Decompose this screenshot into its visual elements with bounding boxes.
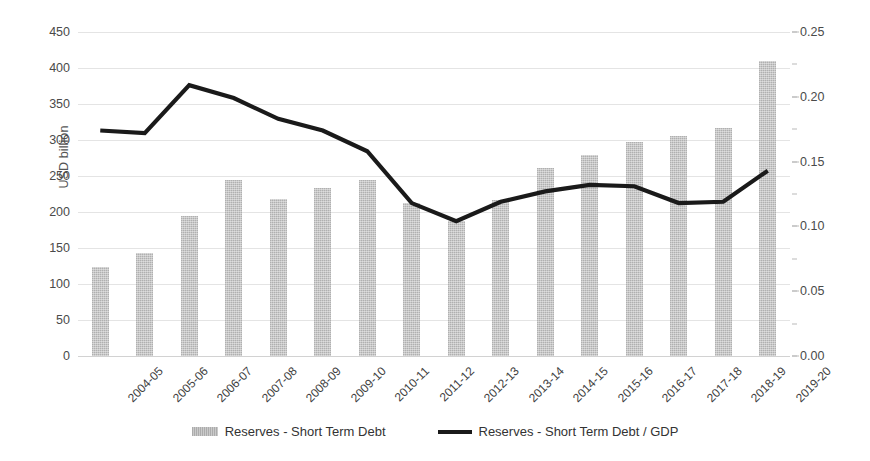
y-tick-label-left: 100 [14,277,70,291]
chart-container: USD billion 050100150200250300350400450 … [0,0,870,461]
y-tick-label-right: 0.10 [800,219,856,233]
y-tick-label-left: 0 [14,349,70,363]
y-axis-right: 0.000.050.100.150.200.25 [800,32,860,356]
y-tick-label-left: 200 [14,205,70,219]
x-tick-label: 2018-19 [748,364,789,405]
y-tick-mark-right-minor [792,96,797,97]
legend-item-bars: Reserves - Short Term Debt [192,424,386,439]
y-tick-mark-right-minor [792,226,797,227]
legend-label-bars: Reserves - Short Term Debt [225,424,386,439]
x-tick-label: 2007-08 [259,364,300,405]
line-swatch-icon [438,430,472,434]
x-tick-label: 2009-10 [348,364,389,405]
y-axis-left: 050100150200250300350400450 [10,32,70,356]
x-tick-label: 2008-09 [303,364,344,405]
plot-area [78,32,790,356]
x-tick-label: 2015-16 [615,364,656,405]
gdp-ratio-line [100,85,768,221]
y-tick-label-left: 450 [14,25,70,39]
y-tick-mark-right-minor [792,291,797,292]
x-tick-label: 2017-18 [704,364,745,405]
y-tick-label-left: 350 [14,97,70,111]
x-tick-label: 2019-20 [793,364,834,405]
line-series-layer [78,32,790,356]
y-tick-label-left: 50 [14,313,70,327]
x-axis-labels: 2004-052005-062006-072007-082008-092009-… [78,358,790,414]
y-tick-mark-right-minor [792,323,797,324]
line-series-svg [78,32,790,356]
x-tick-label: 2011-12 [436,364,476,404]
y-tick-label-left: 150 [14,241,70,255]
x-tick-label: 2014-15 [570,364,611,405]
x-tick-label: 2016-17 [659,364,700,405]
y-tick-mark-right-minor [792,129,797,130]
x-tick-label: 2006-07 [214,364,255,405]
y-tick-label-right: 0.25 [800,25,856,39]
legend-label-line: Reserves - Short Term Debt / GDP [479,424,679,439]
x-tick-label: 2010-11 [392,364,432,404]
y-tick-label-right: 0.00 [800,349,856,363]
x-tick-label: 2005-06 [170,364,211,405]
x-tick-label: 2004-05 [125,364,166,405]
x-tick-label: 2013-14 [526,364,567,405]
x-tick-label: 2012-13 [481,364,522,405]
y-tick-mark-right-minor [792,356,797,357]
y-tick-label-right: 0.15 [800,155,856,169]
y-tick-mark-right-minor [792,32,797,33]
y-tick-label-left: 250 [14,169,70,183]
y-tick-mark-right-minor [792,194,797,195]
y-tick-label-left: 300 [14,133,70,147]
chart-legend: Reserves - Short Term Debt Reserves - Sh… [0,424,870,439]
gridline [78,356,790,357]
y-tick-mark-right-minor [792,258,797,259]
y-tick-mark-right-minor [792,64,797,65]
y-tick-mark-right-minor [792,161,797,162]
bar-swatch-icon [192,427,218,436]
y-tick-label-left: 400 [14,61,70,75]
legend-item-line: Reserves - Short Term Debt / GDP [438,424,679,439]
y-tick-label-right: 0.05 [800,284,856,298]
y-tick-label-right: 0.20 [800,90,856,104]
